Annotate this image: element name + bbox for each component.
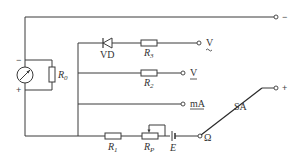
resistor-r2-icon — [141, 70, 157, 76]
r2-label: R2 — [143, 77, 154, 90]
ohm-label: Ω — [204, 132, 211, 143]
circuit-diagram: − + − + R0 VD R3 R2 R1 RP E SA V V mA Ω — [0, 0, 299, 160]
terminal-ac-voltage[interactable] — [197, 41, 201, 45]
battery-label: E — [169, 142, 176, 153]
resistor-r1-icon — [105, 133, 121, 139]
rp-label: RP — [143, 141, 155, 154]
battery-icon — [172, 131, 175, 141]
r3-label: R3 — [143, 47, 154, 60]
switch-sa-blade[interactable] — [201, 88, 262, 135]
terminal-plus[interactable] — [274, 86, 278, 90]
meter-icon — [17, 67, 33, 83]
meter-plus-label: + — [16, 85, 21, 95]
terminal-plus-label: + — [282, 83, 287, 93]
terminal-minus-label: − — [282, 12, 287, 22]
switch-label: SA — [234, 101, 248, 112]
potentiometer-rp-icon — [142, 125, 165, 139]
dc-voltage-label: V — [190, 67, 198, 78]
resistor-r3-icon — [141, 40, 157, 46]
ac-voltage-label: V — [206, 37, 214, 48]
r1-label: R1 — [107, 141, 118, 154]
terminal-minus[interactable] — [274, 15, 278, 19]
meter-minus-label: − — [16, 55, 21, 65]
terminal-current[interactable] — [181, 102, 185, 106]
terminal-dc-voltage[interactable] — [181, 71, 185, 75]
diode-icon — [103, 38, 112, 48]
diode-label: VD — [100, 49, 114, 60]
resistor-r0-icon — [49, 67, 55, 82]
r0-label: R0 — [57, 69, 68, 82]
ac-tilde-icon — [206, 49, 212, 51]
current-label: mA — [190, 98, 206, 109]
